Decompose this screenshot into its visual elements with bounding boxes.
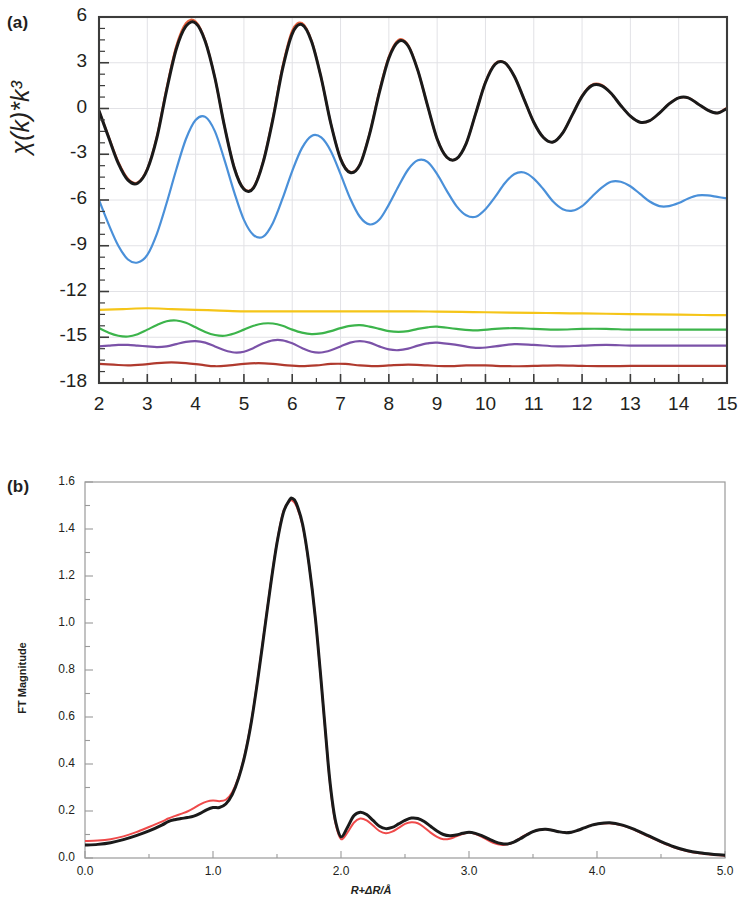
panel-b-x-tick-label: 0.0	[55, 864, 115, 878]
curve-data	[85, 498, 725, 855]
panel-b-y-tick-label: 0.0	[33, 850, 75, 864]
panel-b-x-tick-label: 2.0	[311, 864, 371, 878]
panel-b-y-tick-label: 0.4	[33, 756, 75, 770]
panel-a-x-tick-label: 15	[697, 393, 742, 415]
panel-b-frame	[85, 482, 725, 858]
panel-a-y-tick-label: -18	[13, 370, 87, 392]
panel-a-y-tick-label: 6	[13, 4, 87, 26]
panel-b-x-tick-label: 1.0	[183, 864, 243, 878]
curve-fit	[85, 500, 725, 856]
panel-a-y-tick-label: 0	[13, 96, 87, 118]
panel-b-x-tick-label: 4.0	[567, 864, 627, 878]
panel-b-axes	[85, 482, 725, 858]
panel-b-plot	[0, 0, 742, 910]
panel-a-y-tick-label: -6	[13, 187, 87, 209]
panel-a-y-tick-label: 3	[13, 50, 87, 72]
panel-b-x-tick-label: 5.0	[695, 864, 742, 878]
panel-b-y-tick-label: 1.4	[33, 521, 75, 535]
panel-b-y-tick-label: 1.2	[33, 568, 75, 582]
panel-a-y-tick-label: -15	[13, 324, 87, 346]
panel-b-x-tick-label: 3.0	[439, 864, 499, 878]
panel-b-curves	[85, 498, 725, 856]
panel-b-y-tick-label: 1.6	[33, 474, 75, 488]
panel-a-y-tick-label: -3	[13, 141, 87, 163]
panel-a-y-tick-label: -9	[13, 233, 87, 255]
panel-b-y-tick-label: 0.2	[33, 803, 75, 817]
panel-b-y-tick-label: 1.0	[33, 615, 75, 629]
panel-b-y-tick-label: 0.8	[33, 662, 75, 676]
figure-container: (a) χ(k)*k³ (b) FT Magnitude R+ΔR/Å 2345…	[0, 0, 742, 910]
panel-b-y-tick-label: 0.6	[33, 709, 75, 723]
panel-a-y-tick-label: -12	[13, 279, 87, 301]
